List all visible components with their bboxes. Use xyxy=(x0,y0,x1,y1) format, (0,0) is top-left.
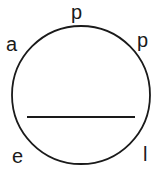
letter-p-top: p xyxy=(71,2,82,22)
letter-a: a xyxy=(6,34,17,54)
circle-diagram xyxy=(0,0,160,174)
letter-l: l xyxy=(143,144,147,164)
letter-p-right: p xyxy=(137,30,148,50)
letter-e: e xyxy=(12,146,23,166)
circle xyxy=(12,26,150,164)
